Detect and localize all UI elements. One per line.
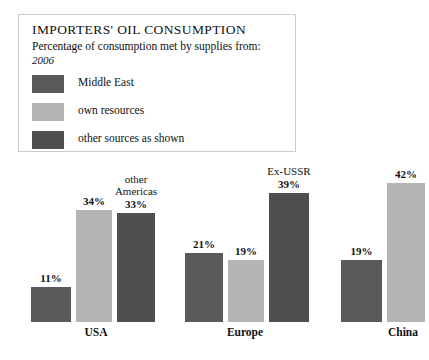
bar-value-label: 19% (220, 245, 272, 257)
bar (76, 210, 112, 322)
bar (185, 253, 223, 322)
chart-year: 2006 (32, 54, 54, 66)
bar-value-label: 42% (379, 168, 429, 180)
legend-label-other-sources: other sources as shown (78, 132, 184, 144)
bar-value-label: 39% (261, 178, 317, 190)
bar (341, 260, 382, 322)
group-axis-label: USA (76, 326, 116, 338)
chart-title: IMPORTERS' OIL CONSUMPTION (32, 22, 246, 38)
bar (269, 193, 309, 322)
bar-annotation-label: Ex-USSR (251, 166, 327, 178)
bar-value-label: 33% (109, 198, 163, 210)
bar (31, 287, 71, 322)
bar (117, 213, 155, 322)
chart-subtitle: Percentage of consumption met by supplie… (32, 40, 261, 52)
legend-label-own-resources: own resources (78, 104, 144, 116)
bar-value-label: 19% (333, 245, 390, 257)
legend-label-middle-east: Middle East (78, 76, 134, 88)
group-axis-label: Europe (222, 326, 268, 338)
bar (387, 183, 425, 322)
legend-swatch-other-sources (32, 131, 64, 149)
legend-swatch-own-resources (32, 103, 64, 121)
bar-annotation-label: otherAmericas (99, 174, 173, 197)
group-axis-label: China (383, 326, 423, 338)
chart-legend-panel: IMPORTERS' OIL CONSUMPTION Percentage of… (18, 14, 296, 152)
bar (228, 260, 264, 322)
bar-value-label: 11% (23, 272, 79, 284)
legend-swatch-middle-east (32, 75, 64, 93)
